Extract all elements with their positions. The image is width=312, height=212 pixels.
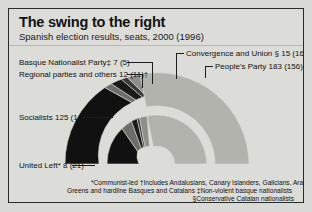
chart-subtitle: Spanish election results, seats, 2000 (1… (19, 31, 204, 42)
label-convergence-and-union: Convergence and Union § 15 (16) (186, 49, 304, 58)
slice-inner-socialists (107, 129, 139, 165)
slice-outer-regional (111, 79, 142, 100)
page-title: The swing to the right (19, 14, 165, 30)
label-socialists: Socialists 125 (141) (19, 113, 89, 122)
footnote-line-2: Greens and hardline Basques and Catalans… (67, 187, 292, 195)
chart-figure: The swing to the right Spanish election … (8, 8, 304, 203)
label-regional-parties: Regional parties and others 12 (11)† (19, 70, 148, 79)
label-united-left: United Left* 8 (21) (19, 161, 84, 170)
leader-peoples-party-v (205, 66, 206, 78)
leader-basque-h (127, 62, 153, 63)
slice-inner-peoples-party (147, 115, 207, 164)
slice-inner-basque (137, 118, 145, 148)
slice-inner-regional (132, 119, 144, 149)
chart-slices (65, 73, 249, 165)
slice-inner-convergence (140, 116, 150, 147)
footnote-line-1: *Communist-led †Includes Andalusians, Ca… (91, 179, 304, 187)
label-basque-nationalist-party: Basque Nationalist Party‡ 7 (5) (19, 58, 130, 67)
leader-peoples-party-h (205, 66, 213, 67)
slice-inner-united-left (122, 121, 141, 151)
slice-outer-peoples-party (140, 73, 249, 164)
leader-convergence-v (176, 53, 177, 79)
footnote-line-3: §Conservative Catalan nationalists (192, 195, 294, 203)
slice-outer-socialists (65, 88, 132, 165)
leader-convergence-h (176, 53, 184, 54)
leader-basque-v (152, 62, 153, 84)
title-divider (9, 45, 303, 46)
label-peoples-party: People's Party 183 (156) (215, 62, 303, 71)
slice-outer-united-left (105, 84, 136, 103)
